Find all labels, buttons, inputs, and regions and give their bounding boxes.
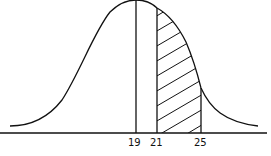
label-21: 21	[150, 137, 163, 148]
normal-curve-diagram: 19 21 25	[0, 0, 271, 156]
bell-curve	[10, 0, 258, 126]
label-25: 25	[194, 137, 207, 148]
label-19: 19	[128, 137, 141, 148]
